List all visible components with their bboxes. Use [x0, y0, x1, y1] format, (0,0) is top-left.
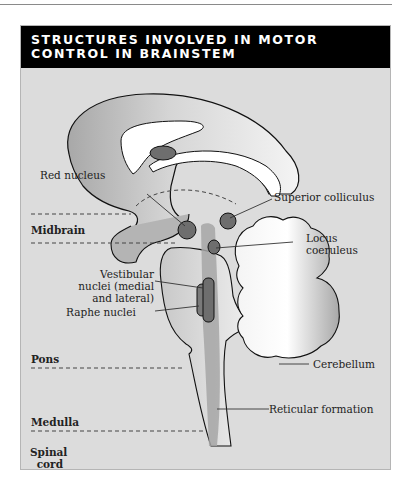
region-pons: Pons	[31, 353, 59, 365]
diagram-panel: STRUCTURES INVOLVED IN MOTOR CONTROL IN …	[20, 25, 391, 470]
label-vestibular-nuclei: Vestibular nuclei (medial and lateral)	[61, 268, 154, 304]
region-midbrain: Midbrain	[31, 224, 85, 236]
region-medulla: Medulla	[31, 416, 79, 428]
label-cerebellum: Cerebellum	[313, 358, 375, 370]
superior-colliculus-shape	[220, 213, 236, 229]
vestibular-nuclei-shape	[203, 278, 214, 322]
locus-coeruleus-shape	[208, 240, 220, 254]
label-locus-coeruleus: Locus coeruleus	[306, 232, 358, 256]
label-reticular-formation: Reticular formation	[269, 403, 373, 415]
label-superior-colliculus: Superior colliculus	[274, 191, 374, 203]
red-nucleus-shape	[178, 221, 196, 239]
label-raphe-nuclei: Raphe nuclei	[66, 306, 136, 318]
region-spinal-cord: Spinal cord	[30, 446, 63, 470]
top-rule	[0, 4, 392, 5]
label-red-nucleus: Red nucleus	[40, 169, 105, 181]
